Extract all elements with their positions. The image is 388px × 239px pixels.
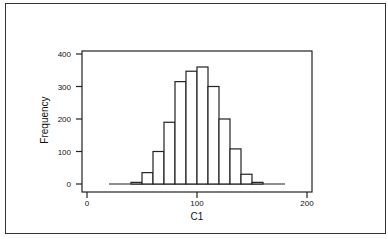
histogram-bar xyxy=(175,82,186,184)
x-tick-label: 200 xyxy=(300,199,314,208)
y-tick-label: 0 xyxy=(67,180,72,189)
y-tick-label: 400 xyxy=(58,50,72,59)
histogram-bar xyxy=(252,182,263,184)
histogram-bar xyxy=(153,152,164,185)
y-tick-label: 200 xyxy=(58,115,72,124)
y-tick-label: 100 xyxy=(58,148,72,157)
histogram-bar xyxy=(131,182,142,184)
x-axis: 0100200 xyxy=(85,192,314,208)
histogram-bar xyxy=(208,87,219,185)
x-tick-label: 100 xyxy=(190,199,204,208)
y-axis: 0100200300400 xyxy=(58,50,82,189)
x-axis-title: C1 xyxy=(191,211,204,222)
histogram-bar xyxy=(142,173,153,184)
histogram-bar xyxy=(186,71,197,184)
y-tick-label: 300 xyxy=(58,83,72,92)
histogram-chart: 0100200300400 0100200 Frequency C1 xyxy=(0,0,388,239)
x-tick-label: 0 xyxy=(85,199,90,208)
histogram-bar xyxy=(241,174,252,184)
histogram-bar xyxy=(164,122,175,184)
bars xyxy=(109,67,285,184)
histogram-bar xyxy=(219,119,230,184)
histogram-bar xyxy=(197,67,208,184)
y-axis-title: Frequency xyxy=(39,96,50,143)
histogram-bar xyxy=(230,149,241,184)
